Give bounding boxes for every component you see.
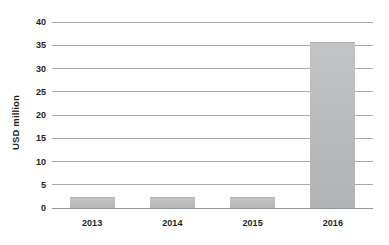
- bar: [70, 197, 115, 208]
- y-axis-tick-label: 10: [0, 157, 46, 166]
- x-axis-tick-label: 2016: [323, 219, 343, 228]
- y-axis-tick-label: 25: [0, 87, 46, 96]
- y-axis-tick-label: 40: [0, 18, 46, 27]
- y-axis-tick-label: 35: [0, 41, 46, 50]
- bar: [230, 197, 275, 208]
- y-axis-tick-label: 15: [0, 134, 46, 143]
- x-axis-tick-label: 2014: [162, 219, 182, 228]
- y-axis-tick-labels: 0510152025303540: [0, 22, 46, 208]
- x-axis-tick-label: 2015: [243, 219, 263, 228]
- bar-chart: USD million 0510152025303540 20132014201…: [0, 0, 389, 245]
- x-axis-tick-label: 2013: [82, 219, 102, 228]
- bar: [150, 197, 195, 208]
- bars-layer: [52, 22, 373, 208]
- bar: [310, 42, 355, 208]
- y-axis-tick-label: 30: [0, 64, 46, 73]
- y-axis-tick-label: 0: [0, 204, 46, 213]
- y-axis-tick-label: 20: [0, 111, 46, 120]
- y-axis-tick-label: 5: [0, 180, 46, 189]
- x-axis-tick-labels: 2013201420152016: [52, 215, 373, 235]
